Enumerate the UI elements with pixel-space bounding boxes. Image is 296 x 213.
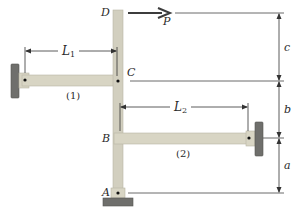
point-C-label: C	[127, 66, 136, 79]
wall-support-2	[255, 122, 263, 156]
dimension-a-label: a	[284, 159, 291, 172]
extension-lines	[128, 13, 284, 193]
point-D-label: D	[100, 6, 110, 19]
member-1-label: (1)	[66, 90, 80, 101]
pin-link1-wall	[23, 78, 26, 81]
point-B-label: B	[101, 132, 110, 145]
dimension-b-label: b	[284, 103, 291, 116]
pin-link2-wall	[247, 136, 250, 139]
member-2-label: (2)	[176, 148, 190, 159]
link-2	[114, 131, 255, 146]
L2-label: L2	[173, 100, 187, 115]
link-1	[22, 75, 122, 86]
point-A-label: A	[101, 186, 110, 199]
vertical-post	[113, 10, 123, 196]
L1-label: L1	[61, 44, 75, 59]
pin-C	[116, 79, 119, 82]
load-P-label: P	[162, 15, 171, 28]
pin-A	[116, 191, 119, 194]
dimension-c-label: c	[284, 41, 290, 54]
mechanics-diagram: c b a L1	[0, 0, 296, 213]
